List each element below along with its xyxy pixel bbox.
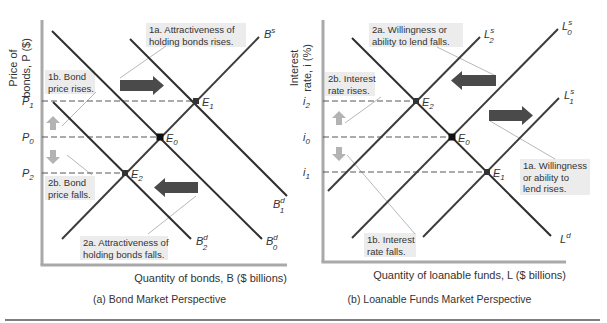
loanable-funds-market-curve-label-Ls2: Ls2 xyxy=(484,26,494,45)
bond-market-curve-label-Bd2-sub: 2 xyxy=(202,243,208,252)
bond-market-curve-label-Bd1-sub: 1 xyxy=(280,206,284,215)
loanable-funds-market-curve-label-Ls1-sub: 1 xyxy=(569,97,573,106)
bond-market-shift-arrow-left-icon xyxy=(154,178,198,197)
loanable-funds-market-note-2a: 2a. Willingness orability to lend falls. xyxy=(372,24,450,47)
loanable-funds-market-change-arrow-up-icon xyxy=(332,111,346,125)
loanable-funds-market-equilibrium-E0-marker xyxy=(449,134,456,141)
bond-market-note-1a: 1a. Attractiveness ofholding bonds rises… xyxy=(149,24,235,47)
leader-line xyxy=(62,92,96,126)
loanable-funds-market-note-1b-line: 1b. Interest xyxy=(367,234,415,245)
bond-market-curve-label-Bs-base: B xyxy=(264,28,271,40)
bond-market-curve-label-Bs-sup: s xyxy=(271,26,275,35)
bond-market-x-axis-title: Quantity of bonds, B ($ billions) xyxy=(134,272,287,284)
leader-line xyxy=(148,196,196,234)
loanable-funds-market-note-2b: 2b. Interestrate rises. xyxy=(328,73,376,96)
leader-line xyxy=(67,155,92,175)
bond-market-caption: (a) Bond Market Perspective xyxy=(93,293,226,305)
bond-market-note-1a-line: 1a. Attractiveness of xyxy=(149,24,235,35)
loanable-funds-market-change-arrow-down-icon xyxy=(332,147,346,161)
loanable-funds-market-y-axis-title: Interestrate, i (%) xyxy=(288,44,313,92)
loanable-funds-market-y-axis-title-line1: Interest xyxy=(288,50,300,87)
bond-market-note-2a: 2a. Attractiveness ofholding bonds falls… xyxy=(83,237,169,260)
bond-market-curve-Bd1 xyxy=(130,39,287,196)
bond-market-tick-P0: P0 xyxy=(22,131,34,146)
loanable-funds-market-curve-label-Ls1: Ls1 xyxy=(564,87,574,106)
loanable-funds-market-shift-arrow-right-icon xyxy=(489,106,533,125)
loanable-funds-market-curve-label-Ls0-sup: s xyxy=(568,18,572,27)
loanable-funds-market-tick-i1: i1 xyxy=(303,166,310,181)
bond-market-note-2a-line: 2a. Attractiveness of xyxy=(83,237,169,248)
bond-market-note-1a-line: holding bonds rises. xyxy=(149,36,234,47)
bond-market-note-2b: 2b. Bondprice falls. xyxy=(48,177,91,200)
loanable-funds-market-y-axis-title-line2: rate, i (%) xyxy=(301,44,313,92)
loanable-funds-market-note-1a-line: lend rises. xyxy=(523,183,566,194)
bond-market-curve-label-Bd2-sup: d xyxy=(203,233,208,242)
loanable-funds-market-curve-label-Ls0-sub: 0 xyxy=(567,28,572,37)
bond-market-note-2a-line: holding bonds falls. xyxy=(83,249,164,260)
bond-market-change-arrow-up-icon xyxy=(46,116,60,130)
bond-market-equilibrium-E1-label-sub: 1 xyxy=(209,102,213,111)
loanable-funds-market-tick-i2-sub: 2 xyxy=(304,101,310,110)
loanable-funds-market-curve-label-Ld-sup: d xyxy=(566,231,571,240)
bond-market-y-axis-title: Price ofbonds, P ($) xyxy=(7,38,32,98)
loanable-funds-market-equilibrium-E0-label-sub: 0 xyxy=(465,138,470,147)
loanable-funds-market-note-1a-line: 1a. Willingness xyxy=(523,160,587,171)
loanable-funds-market-curve-label-Ls0: Ls0 xyxy=(562,18,572,37)
loanable-funds-market-note-2b-line: 2b. Interest xyxy=(328,73,376,84)
bond-market-equilibrium-E0-marker xyxy=(157,134,164,141)
bond-market-equilibrium-E2-label-sub: 2 xyxy=(137,174,143,183)
bond-market-curve-label-Bd0-sup: d xyxy=(273,233,278,242)
bond-market-curve-label-Bd1-sup: d xyxy=(280,196,285,205)
bond-market-curve-label-Bs: Bs xyxy=(264,26,275,40)
loanable-funds-market-equilibrium-E1-marker xyxy=(484,169,490,175)
bond-market-equilibrium-E2-marker xyxy=(122,170,128,176)
bond-market-shift-arrow-right-icon xyxy=(120,76,164,95)
loanable-funds-market-curve-label-Ls2-sup: s xyxy=(490,26,494,35)
loanable-funds-market-equilibrium-E2-marker xyxy=(413,98,419,104)
bond-market-tick-P1: P1 xyxy=(22,95,34,110)
bond-market-tick-P2-sub: 2 xyxy=(28,173,34,182)
bond-market-curve-label-Bd0: Bd0 xyxy=(266,233,278,252)
bond-market-note-1b-line: price rises. xyxy=(48,83,94,94)
loanable-funds-market-note-1a-line: or ability to xyxy=(523,172,569,183)
loanable-funds-market-note-1b-line: rate falls. xyxy=(367,246,406,257)
bond-market-equilibrium-E1-label: E1 xyxy=(202,96,214,111)
bond-market-tick-P0-sub: 0 xyxy=(29,137,34,146)
loanable-funds-market-equilibrium-E2-label-sub: 2 xyxy=(428,102,434,111)
bond-market-curve-label-Bd1: Bd1 xyxy=(273,196,285,215)
loanable-funds-market-x-axis-title: Quantity of loanable funds, L ($ billion… xyxy=(373,269,566,281)
loanable-funds-market-note-2b-line: rate rises. xyxy=(328,85,370,96)
loanable-funds-market-equilibrium-E1-label-sub: 1 xyxy=(500,173,504,182)
loanable-funds-market-tick-i0: i0 xyxy=(303,131,310,146)
bond-market-y-axis-title-line2: bonds, P ($) xyxy=(20,38,32,98)
loanable-funds-market-note-2a-line: 2a. Willingness or xyxy=(372,24,447,35)
loanable-funds-market-curve-label-Ls1-sup: s xyxy=(570,87,574,96)
bond-market-curve-label-Bd2: Bd2 xyxy=(196,233,208,252)
loanable-funds-market-curve-label-Ls2-sub: 2 xyxy=(488,36,494,45)
loanable-funds-market-tick-i0-sub: 0 xyxy=(305,137,310,146)
loanable-funds-market-curve-label-Ld: Ld xyxy=(560,231,571,245)
loanable-funds-market-shift-arrow-left-icon xyxy=(451,71,496,90)
loanable-funds-market-note-2a-line: ability to lend falls. xyxy=(372,36,450,47)
loanable-funds-market-tick-i2: i2 xyxy=(303,95,310,110)
bond-market-curve-label-Bd0-sub: 0 xyxy=(273,243,278,252)
leader-line xyxy=(490,121,555,159)
bond-market-equilibrium-E1-marker xyxy=(193,98,199,104)
bond-market-note-2b-line: price falls. xyxy=(48,189,91,200)
leader-line xyxy=(347,155,415,234)
bond-market-y-axis-title-line1: Price of xyxy=(7,48,19,86)
bond-market-change-arrow-down-icon xyxy=(46,150,60,164)
loanable-funds-market-curve-Ls2 xyxy=(328,37,480,191)
bond-market-tick-P2: P2 xyxy=(22,167,34,182)
bond-market-note-1b-line: 1b. Bond xyxy=(48,71,86,82)
bond-and-loanable-funds-figure: Price ofbonds, P ($)Quantity of bonds, B… xyxy=(0,0,607,323)
bond-market-note-2b-line: 2b. Bond xyxy=(48,177,86,188)
bond-market-equilibrium-E0-label-sub: 0 xyxy=(173,138,178,147)
bond-market-tick-P1-sub: 1 xyxy=(29,101,33,110)
loanable-funds-market-tick-i1-sub: 1 xyxy=(305,172,309,181)
loanable-funds-market-caption: (b) Loanable Funds Market Perspective xyxy=(348,293,532,305)
